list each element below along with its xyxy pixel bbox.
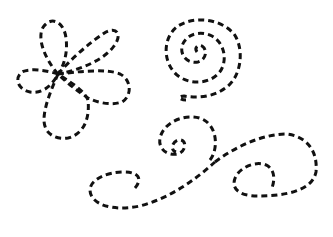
tracing-artwork xyxy=(0,0,333,237)
background xyxy=(0,0,333,237)
